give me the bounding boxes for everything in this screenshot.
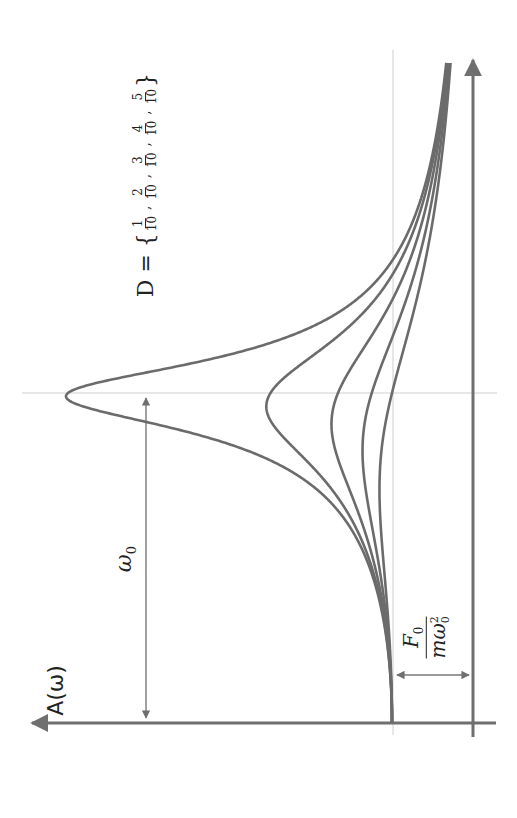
damping-fraction: 510: [132, 89, 158, 104]
omega-symbol: ω: [111, 554, 136, 572]
damping-fraction: 310: [132, 152, 158, 167]
omega-subscript: 0: [124, 546, 139, 554]
resonance-chart: [0, 0, 517, 818]
damping-prefix: D = {: [133, 233, 158, 297]
fraction-numerator: F0: [400, 616, 427, 658]
static-amplitude-label: F0 mω20: [400, 616, 451, 658]
damping-set-label: D = { 110,210,310,410,510 }: [132, 73, 158, 297]
damping-suffix: }: [133, 73, 158, 87]
omega0-label: ω0: [111, 546, 139, 572]
damping-fraction: 110: [132, 216, 158, 231]
damping-fraction: 210: [132, 184, 158, 199]
damping-fraction: 410: [132, 121, 158, 136]
fraction-denominator: mω20: [427, 616, 451, 658]
y-axis-label: A(ω): [43, 665, 68, 716]
